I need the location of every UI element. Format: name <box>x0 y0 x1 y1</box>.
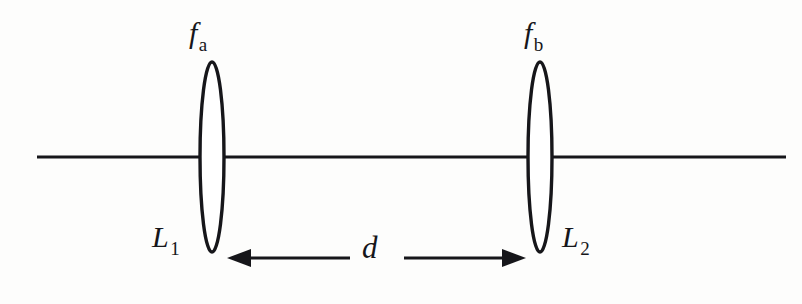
focal-length-label-lens-1: fa <box>189 18 206 50</box>
lens-1-shape <box>200 62 224 252</box>
focal-length-label-lens-2: fb <box>524 18 542 50</box>
separation-distance-symbol: d <box>362 230 378 265</box>
diagram-canvas <box>0 0 802 304</box>
arrowhead-left-icon <box>227 249 251 267</box>
lens-1-label: L1 <box>152 222 179 254</box>
lens-2-symbol: L <box>562 220 579 253</box>
lens-2-label: L2 <box>562 222 589 254</box>
focal-length-symbol-a: f <box>189 16 198 49</box>
arrowhead-right-icon <box>502 249 526 267</box>
focal-length-subscript-b: b <box>534 34 544 55</box>
lens-1-subscript: 1 <box>170 238 180 259</box>
lens-2-subscript: 2 <box>580 238 590 259</box>
lens-1-symbol: L <box>152 220 169 253</box>
separation-distance-label: d <box>362 232 378 263</box>
focal-length-symbol-b: f <box>524 16 533 49</box>
focal-length-subscript-a: a <box>199 34 207 55</box>
optics-diagram-figure: fa fb L1 L2 d <box>0 0 802 304</box>
lens-2-shape <box>528 62 552 252</box>
